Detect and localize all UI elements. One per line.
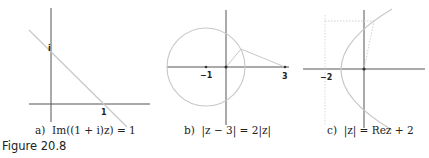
caption-c: c) |z| = Rez + 2: [327, 124, 414, 136]
panel-c-plot: −2: [303, 9, 425, 130]
caption-a-math: Im((1 + i)z) = 1: [52, 124, 136, 136]
panel-b-plot: −1 3: [167, 10, 289, 125]
caption-c-math: |z| = Rez + 2: [344, 124, 414, 136]
label-i: i: [48, 44, 51, 53]
panel-a-plot: i 1: [29, 8, 150, 127]
caption-a: a) Im((1 + i)z) = 1: [35, 124, 136, 136]
svg-text:3: 3: [282, 72, 288, 81]
svg-text:−2: −2: [320, 73, 332, 82]
caption-b-math: |z − 3| = 2|z|: [202, 124, 272, 136]
figure-label: Figure 20.8: [2, 139, 66, 153]
svg-text:−1: −1: [200, 71, 213, 80]
label-1: 1: [101, 108, 107, 117]
caption-b: b) |z − 3| = 2|z|: [184, 124, 271, 136]
